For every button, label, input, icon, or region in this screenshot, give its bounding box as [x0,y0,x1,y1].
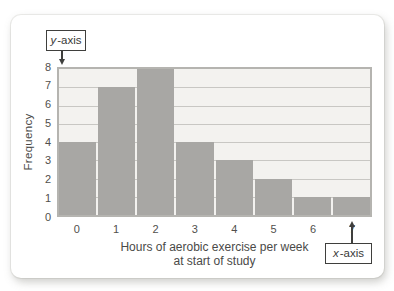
x-tick-6: 6 [301,223,325,236]
y-axis-callout-letter: y [50,34,56,46]
x-axis-callout: x-axis [325,243,372,264]
y-tick-4: 4 [19,136,51,149]
x-tick-5: 5 [262,223,286,236]
bar-hour-5 [255,179,292,216]
plot-canvas [59,69,370,215]
bar-hour-4 [216,160,253,215]
bar-hour-0 [59,142,96,215]
x-axis-callout-suffix: -axis [340,247,364,259]
y-tick-0: 0 [19,211,51,224]
plot-area [57,67,372,217]
bar-hour-2 [137,69,174,215]
x-tick-3: 3 [183,223,207,236]
x-axis-callout-letter: x [333,247,339,259]
x-tick-0: 0 [65,223,89,236]
y-tick-1: 1 [19,192,51,205]
x-tick-2: 2 [143,223,167,236]
y-axis-callout: y-axis [46,30,86,51]
y-tick-7: 7 [19,79,51,92]
x-tick-4: 4 [222,223,246,236]
y-axis-callout-suffix: -axis [57,34,81,46]
figure-card: y-axis Frequency Hours of aerobic exerci… [11,15,384,278]
bar-hour-3 [176,142,213,215]
bar-hour-6 [294,197,331,215]
x-axis-arrow-stem [351,227,353,243]
x-tick-1: 1 [104,223,128,236]
y-tick-3: 3 [19,154,51,167]
x-axis-arrowhead-icon [349,221,355,227]
bar-hour-1 [98,87,135,215]
y-tick-6: 6 [19,98,51,111]
y-axis-arrowhead-icon [59,59,65,65]
y-tick-2: 2 [19,173,51,186]
y-tick-5: 5 [19,117,51,130]
bar-hour-7 [333,197,370,215]
bars-group [59,69,370,215]
y-tick-8: 8 [19,61,51,74]
